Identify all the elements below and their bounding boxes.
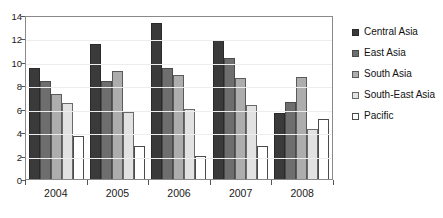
bar xyxy=(29,68,40,179)
x-tick-mark xyxy=(87,180,88,185)
legend-item[interactable]: East Asia xyxy=(352,47,443,59)
y-tick-label: 0 xyxy=(0,176,22,185)
bar xyxy=(318,119,329,179)
x-tick-label: 2006 xyxy=(151,186,207,202)
legend-swatch-icon xyxy=(352,71,359,78)
y-tick-label: 14 xyxy=(0,12,22,21)
legend-item[interactable]: Central Asia xyxy=(352,26,443,38)
legend-label: East Asia xyxy=(364,47,406,59)
legend-swatch-icon xyxy=(352,113,359,120)
y-tick-label: 4 xyxy=(0,129,22,138)
legend-label: South-East Asia xyxy=(364,89,435,101)
x-tick-mark xyxy=(210,180,211,185)
bar xyxy=(162,68,173,179)
y-tick-label: 8 xyxy=(0,82,22,91)
legend-swatch-icon xyxy=(352,50,359,57)
y-tick-label: 2 xyxy=(0,152,22,161)
bar xyxy=(101,81,112,179)
bar xyxy=(274,113,285,179)
legend-label: Pacific xyxy=(364,110,393,122)
bar xyxy=(62,103,73,179)
bar xyxy=(307,129,318,179)
legend-item[interactable]: South-East Asia xyxy=(352,89,443,101)
x-tick-mark xyxy=(271,180,272,185)
bar xyxy=(257,146,268,179)
x-tick-label: 2008 xyxy=(274,186,330,202)
y-tick-label: 12 xyxy=(0,35,22,44)
legend-label: South Asia xyxy=(364,68,412,80)
x-tick-mark xyxy=(148,180,149,185)
bar xyxy=(195,156,206,179)
gridline xyxy=(26,87,332,88)
bar xyxy=(40,81,51,179)
gridline xyxy=(26,134,332,135)
x-tick-label: 2004 xyxy=(28,186,84,202)
bar xyxy=(134,146,145,179)
bar xyxy=(246,105,257,179)
legend-label: Central Asia xyxy=(364,26,418,38)
bar xyxy=(173,75,184,179)
x-tick-mark xyxy=(333,180,334,185)
x-tick-label: 2005 xyxy=(89,186,145,202)
legend-swatch-icon xyxy=(352,29,359,36)
chart-legend: Central AsiaEast AsiaSouth AsiaSouth-Eas… xyxy=(352,26,443,131)
bar xyxy=(235,78,246,179)
gridline xyxy=(26,158,332,159)
bar xyxy=(184,109,195,179)
bar xyxy=(51,94,62,180)
legend-item[interactable]: Pacific xyxy=(352,110,443,122)
plot-area xyxy=(25,16,333,180)
gridline xyxy=(26,64,332,65)
bar xyxy=(296,77,307,179)
y-tick-label: 6 xyxy=(0,105,22,114)
gridline xyxy=(26,111,332,112)
y-axis: 02468101214 xyxy=(0,12,22,180)
bar xyxy=(123,112,134,179)
grouped-bar-chart: 02468101214 20042005200620072008 Central… xyxy=(0,0,443,218)
legend-item[interactable]: South Asia xyxy=(352,68,443,80)
gridline xyxy=(26,40,332,41)
bar xyxy=(224,58,235,179)
x-tick-label: 2007 xyxy=(213,186,269,202)
x-tick-mark xyxy=(25,180,26,185)
bar xyxy=(151,23,162,179)
y-tick-label: 10 xyxy=(0,58,22,67)
legend-swatch-icon xyxy=(352,92,359,99)
x-axis-labels: 20042005200620072008 xyxy=(25,186,333,202)
bar xyxy=(285,102,296,179)
